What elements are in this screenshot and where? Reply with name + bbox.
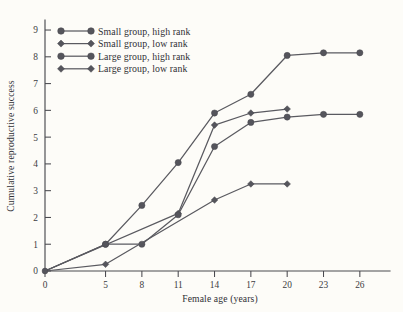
data-point-circle bbox=[357, 50, 363, 56]
x-tick-label: 23 bbox=[319, 280, 329, 290]
data-point-diamond bbox=[211, 197, 218, 204]
legend-entry[interactable]: Small group, low rank bbox=[58, 38, 188, 49]
x-tick-label: 0 bbox=[43, 280, 48, 290]
data-point-diamond bbox=[58, 65, 65, 72]
x-axis: 058111417202326 bbox=[43, 271, 390, 290]
y-tick-label: 6 bbox=[33, 106, 38, 116]
data-point-circle bbox=[320, 111, 326, 117]
legend-label: Large group, high rank bbox=[98, 51, 190, 62]
data-point-diamond bbox=[102, 261, 109, 268]
y-tick-label: 7 bbox=[33, 79, 38, 89]
y-tick-label: 8 bbox=[33, 52, 38, 62]
series-small-group-high-rank bbox=[45, 50, 363, 271]
y-tick-label: 1 bbox=[33, 240, 38, 250]
data-point-diamond bbox=[88, 40, 95, 47]
data-point-diamond bbox=[284, 106, 291, 113]
data-point-circle bbox=[102, 241, 108, 247]
data-point-circle bbox=[139, 202, 145, 208]
x-axis-title: Female age (years) bbox=[182, 293, 258, 305]
y-tick-group: 0123456789 bbox=[33, 25, 51, 276]
data-point-diamond bbox=[58, 40, 65, 47]
y-axis: 0123456789 bbox=[33, 20, 51, 276]
legend-label: Small group, high rank bbox=[98, 26, 191, 37]
y-tick-label: 3 bbox=[33, 186, 38, 196]
y-tick-label: 2 bbox=[33, 213, 38, 223]
data-point-circle bbox=[357, 111, 363, 117]
data-point-circle bbox=[211, 143, 217, 149]
y-axis-title: Cumulative reproductive success bbox=[5, 80, 16, 212]
series-line bbox=[45, 184, 287, 271]
series-large-group-low-rank bbox=[45, 181, 290, 271]
chart-legend: Small group, high rankSmall group, low r… bbox=[58, 26, 191, 75]
data-point-circle bbox=[58, 53, 65, 60]
x-tick-group: 058111417202326 bbox=[43, 271, 365, 290]
data-point-circle bbox=[175, 159, 181, 165]
legend-label: Small group, low rank bbox=[98, 38, 188, 49]
x-tick-label: 26 bbox=[355, 280, 365, 290]
chart-plot-area: 0123456789 058111417202326 Small group, … bbox=[0, 0, 403, 312]
data-point-circle bbox=[248, 119, 254, 125]
legend-label: Large group, low rank bbox=[98, 63, 188, 74]
data-point-diamond bbox=[248, 110, 255, 117]
data-point-diamond bbox=[248, 181, 255, 188]
x-tick-label: 11 bbox=[174, 280, 183, 290]
data-point-circle bbox=[248, 91, 254, 97]
y-tick-label: 0 bbox=[33, 266, 38, 276]
legend-entry[interactable]: Large group, high rank bbox=[58, 51, 191, 62]
x-tick-label: 14 bbox=[210, 280, 220, 290]
data-series-group bbox=[42, 50, 363, 274]
data-point-circle bbox=[211, 110, 217, 116]
data-point-circle bbox=[175, 212, 181, 218]
y-tick-label: 4 bbox=[33, 159, 38, 169]
x-tick-label: 5 bbox=[103, 280, 108, 290]
data-point-circle bbox=[88, 53, 95, 60]
data-point-circle bbox=[88, 28, 95, 35]
data-point-diamond bbox=[88, 65, 95, 72]
legend-entry[interactable]: Small group, high rank bbox=[58, 26, 191, 37]
y-tick-label: 9 bbox=[33, 25, 38, 35]
series-line bbox=[45, 109, 287, 271]
x-tick-label: 8 bbox=[140, 280, 145, 290]
legend-entry[interactable]: Large group, low rank bbox=[58, 63, 188, 74]
x-tick-label: 17 bbox=[246, 280, 256, 290]
data-point-circle bbox=[284, 114, 290, 120]
data-point-circle bbox=[58, 28, 65, 35]
series-line bbox=[45, 114, 360, 271]
series-line bbox=[45, 53, 360, 271]
x-tick-label: 20 bbox=[282, 280, 292, 290]
chart-figure: 0123456789 058111417202326 Small group, … bbox=[0, 0, 403, 312]
y-tick-label: 5 bbox=[33, 133, 38, 143]
data-point-diamond bbox=[284, 181, 291, 188]
data-point-diamond bbox=[211, 122, 218, 129]
series-large-group-high-rank bbox=[45, 111, 363, 271]
data-point-circle bbox=[42, 268, 48, 274]
data-point-circle bbox=[284, 52, 290, 58]
series-small-group-low-rank bbox=[45, 106, 290, 271]
data-point-circle bbox=[320, 50, 326, 56]
